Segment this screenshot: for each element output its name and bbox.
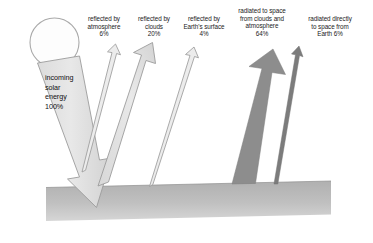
label-reflected-clouds: reflected by clouds 20% [130,15,178,38]
label-incoming-solar-energy: incoming solar energy 100% [45,73,91,111]
reflected-earth-surface-arrow [150,47,199,187]
label-radiated-directly-earth: radiated directly to space from Earth 6% [298,15,362,38]
reflected-clouds-arrow [98,43,156,187]
label-reflected-atmosphere: reflected by atmosphere 6% [78,15,130,38]
earth-energy-budget-diagram: incoming solar energy 100% reflected by … [0,0,373,243]
label-reflected-earth-surface: reflected by Earth's surface 4% [176,15,232,38]
label-radiated-clouds-atmosphere: radiated to space from clouds and atmosp… [229,7,295,37]
